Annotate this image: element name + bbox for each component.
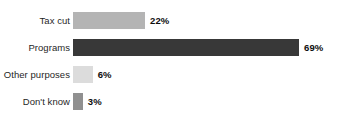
horizontal-bar-chart: Tax cut 22% Programs 69% Other purposes … <box>0 0 346 126</box>
category-label-tax-cut: Tax cut <box>0 15 73 26</box>
bar-track-other-purposes: 6% <box>73 66 346 83</box>
category-label-programs: Programs <box>0 42 73 53</box>
value-label-other-purposes: 6% <box>93 69 112 80</box>
category-label-dont-know: Don't know <box>0 96 73 107</box>
category-label-other-purposes: Other purposes <box>0 69 73 80</box>
bar-dont-know <box>73 93 83 110</box>
value-label-tax-cut: 22% <box>145 15 169 26</box>
bar-track-programs: 69% <box>73 39 346 56</box>
chart-row-other-purposes: Other purposes 6% <box>0 61 346 88</box>
value-label-programs: 69% <box>299 42 323 53</box>
bar-programs <box>73 39 299 56</box>
bar-other-purposes <box>73 66 93 83</box>
chart-row-dont-know: Don't know 3% <box>0 88 346 115</box>
bar-track-tax-cut: 22% <box>73 12 346 29</box>
chart-rows: Tax cut 22% Programs 69% Other purposes … <box>0 7 346 115</box>
value-label-dont-know: 3% <box>83 96 102 107</box>
bar-tax-cut <box>73 12 145 29</box>
chart-row-tax-cut: Tax cut 22% <box>0 7 346 34</box>
chart-row-programs: Programs 69% <box>0 34 346 61</box>
bar-track-dont-know: 3% <box>73 93 346 110</box>
